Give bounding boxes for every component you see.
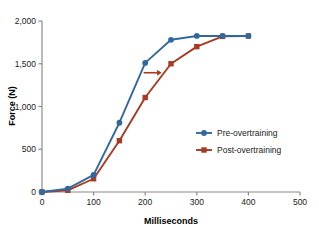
y-tick-label: 1,000 — [15, 102, 37, 112]
y-tick-label: 0 — [31, 187, 36, 197]
data-point — [168, 37, 174, 43]
y-tick-label: 1,500 — [15, 59, 37, 69]
y-tick-label: 500 — [22, 144, 36, 154]
data-point — [246, 33, 252, 39]
legend-label: Pre-overtraining — [217, 128, 278, 138]
line-chart: 05001,0001,5002,000 0100200300400500 Mil… — [0, 0, 319, 231]
data-point — [168, 61, 173, 66]
data-point — [65, 186, 71, 192]
x-tick-label: 400 — [241, 197, 255, 207]
data-point — [143, 95, 148, 100]
data-point — [117, 120, 123, 126]
data-point — [194, 33, 200, 39]
legend-label: Post-overtraining — [217, 145, 282, 155]
data-point — [117, 138, 122, 143]
data-point — [91, 172, 97, 178]
data-point — [220, 33, 226, 39]
data-point — [142, 60, 148, 66]
x-tick-label: 200 — [138, 197, 152, 207]
chart-figure: 05001,0001,5002,000 0100200300400500 Mil… — [0, 0, 319, 231]
x-tick-label: 300 — [190, 197, 204, 207]
legend-marker — [201, 147, 206, 152]
y-axis-title: Force (N) — [7, 86, 17, 126]
data-point — [194, 44, 199, 49]
x-tick-label: 100 — [87, 197, 101, 207]
x-tick-label: 500 — [293, 197, 307, 207]
chart-background — [0, 0, 319, 231]
y-tick-label: 2,000 — [15, 16, 37, 26]
x-axis-title: Milliseconds — [144, 216, 198, 226]
legend-marker — [201, 130, 207, 136]
data-point — [39, 189, 45, 195]
x-tick-label: 0 — [40, 197, 45, 207]
